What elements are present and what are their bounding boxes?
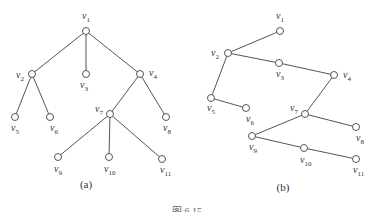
subfigure-caption-b: (b) [277, 181, 290, 194]
subfigure-caption-a: (a) [80, 178, 93, 191]
edge-v4-v7 [110, 74, 140, 114]
vertex-subscript: 7 [294, 108, 298, 116]
vertex-subscript: 6 [54, 128, 58, 136]
vertex-label-v11: v11 [160, 164, 172, 178]
vertex-v1 [277, 28, 284, 35]
vertex-label-v1: v1 [82, 10, 90, 24]
vertex-subscript: 1 [86, 16, 90, 24]
vertex-v1 [83, 28, 90, 35]
vertex-v6 [47, 114, 54, 121]
vertex-subscript: 2 [215, 53, 219, 61]
vertex-label-v4: v4 [343, 69, 351, 83]
vertex-subscript: 10 [108, 169, 116, 177]
vertex-subscript: 10 [304, 160, 312, 168]
vertex-subscript: 3 [84, 85, 88, 93]
vertex-v7 [302, 111, 309, 118]
edge-v2-v3 [228, 53, 279, 63]
edge-v3-v4 [279, 63, 334, 75]
vertex-label-v3: v3 [276, 68, 284, 82]
vertex-v4 [331, 72, 338, 79]
vertex-subscript: 7 [99, 109, 103, 117]
vertex-v5 [208, 95, 215, 102]
edge-v2-v5 [211, 53, 228, 98]
spanning-tree-diagram-b: v1v2v3v4v5v6v7v8v9v10v11(b) [207, 10, 365, 194]
vertex-label-v2: v2 [211, 47, 219, 61]
edge-v7-v8 [305, 114, 356, 127]
vertex-v9 [55, 154, 62, 161]
vertex-v4 [137, 71, 144, 78]
vertex-label-v4: v4 [149, 67, 157, 81]
vertex-label-v5: v5 [207, 102, 215, 116]
vertex-subscript: 6 [250, 119, 254, 127]
vertex-label-v3: v3 [80, 79, 88, 93]
edge-v1-v2 [228, 31, 280, 53]
vertex-label-v10: v10 [300, 154, 312, 168]
edge-v1-v4 [86, 31, 140, 74]
edge-v7-v9 [58, 114, 110, 157]
tree-diagram-a: v1v2v3v4v5v6v7v8v9v10v11(a) [11, 10, 172, 191]
vertex-subscript: 4 [153, 73, 157, 81]
vertex-subscript: 3 [280, 74, 284, 82]
edge-v5-v6 [211, 98, 246, 108]
vertex-label-v6: v6 [246, 113, 254, 127]
edge-v7-v11 [110, 114, 162, 159]
vertex-subscript: 4 [347, 75, 351, 83]
edge-v2-v6 [32, 74, 50, 117]
edge-v10-v11 [304, 148, 356, 159]
vertex-subscript: 9 [58, 169, 62, 177]
vertex-v8 [353, 124, 360, 131]
vertex-subscript: 2 [20, 75, 24, 83]
vertex-label-v2: v2 [16, 69, 24, 83]
vertex-subscript: 5 [211, 108, 215, 116]
vertex-subscript: 11 [164, 170, 171, 178]
vertex-label-v11: v11 [353, 164, 365, 178]
vertex-subscript: 5 [15, 128, 19, 136]
vertex-subscript: 1 [280, 16, 284, 24]
vertex-label-v1: v1 [276, 10, 284, 24]
vertex-v6 [243, 105, 250, 112]
vertex-v5 [12, 114, 19, 121]
edge-v9-v10 [252, 136, 304, 148]
vertex-label-v9: v9 [54, 163, 62, 177]
vertex-v2 [29, 71, 36, 78]
edge-v7-v9 [252, 114, 305, 136]
vertex-v11 [353, 156, 360, 163]
vertex-subscript: 11 [357, 170, 364, 178]
vertex-label-v8: v8 [163, 122, 171, 136]
vertex-label-v8: v8 [356, 132, 364, 146]
vertex-label-v6: v6 [50, 122, 58, 136]
vertex-label-v7: v7 [95, 103, 103, 117]
vertex-subscript: 8 [360, 138, 364, 146]
vertex-subscript: 8 [167, 128, 171, 136]
vertex-v10 [106, 154, 113, 161]
vertex-v11 [159, 156, 166, 163]
edge-v4-v7 [305, 75, 334, 114]
vertex-label-v5: v5 [11, 122, 19, 136]
vertex-label-v7: v7 [290, 102, 298, 116]
vertex-v2 [225, 50, 232, 57]
vertex-v10 [301, 145, 308, 152]
vertex-v7 [107, 111, 114, 118]
vertex-v3 [276, 60, 283, 67]
vertex-v8 [163, 114, 170, 121]
vertex-v3 [83, 71, 90, 78]
edge-v7-v10 [109, 114, 110, 157]
figure-caption: 图 6.15 [172, 206, 202, 212]
vertex-v9 [249, 133, 256, 140]
vertex-label-v9: v9 [249, 141, 257, 155]
vertex-subscript: 9 [253, 147, 257, 155]
vertex-label-v10: v10 [104, 163, 116, 177]
tree-diagram-canvas: v1v2v3v4v5v6v7v8v9v10v11(a) v1v2v3v4v5v6… [0, 0, 377, 212]
edge-v1-v2 [32, 31, 86, 74]
